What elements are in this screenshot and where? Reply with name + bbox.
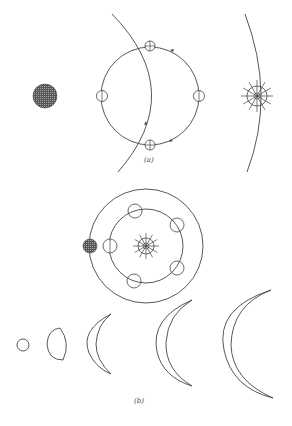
venus-left [103,239,117,253]
deferent-arc [112,14,152,172]
venus-top [145,41,155,51]
venus-right [194,91,205,102]
earth-icon [83,239,97,253]
panel-b: (b) [17,189,273,405]
phase-crescent-small [87,314,111,374]
panel-b-label: (b) [134,397,144,405]
phase-full [17,339,29,351]
phase-gibbous [47,328,66,360]
panel-a-label: (a) [144,156,154,164]
venus-phases-diagram: (a) [0,0,292,426]
phase-crescent-large [223,290,273,398]
sun-icon [241,80,273,112]
panel-a: (a) [33,14,273,172]
epicycle-circle [101,47,199,145]
sun-icon [133,233,159,259]
deferent-arrow-icon [144,121,147,125]
phase-crescent-medium [156,300,192,386]
venus-bottom [145,140,155,150]
venus-lower-right [170,261,184,275]
venus-left [97,91,108,102]
earth-icon [33,84,57,108]
